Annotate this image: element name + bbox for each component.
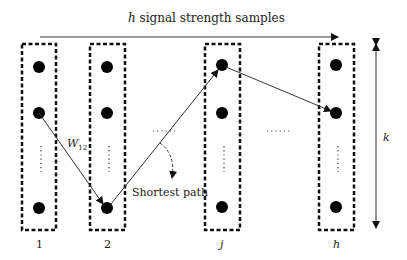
shortest-path-label: Shortest path: [132, 186, 208, 199]
column-label-j: j: [220, 238, 223, 251]
k-label: k: [383, 131, 390, 144]
diagram-canvas: [0, 0, 407, 260]
column-label-2: 2: [104, 238, 111, 251]
column-label-1: 1: [36, 238, 43, 251]
column-label-h: h: [333, 238, 340, 251]
annotation-arrow: [160, 143, 173, 178]
chart-title: h signal strength samples: [128, 11, 285, 25]
edge-weight-label: W12: [67, 137, 87, 152]
path-edge-1-2: [39, 113, 103, 204]
path-edge-2-j: [111, 70, 218, 204]
path-edge-j-h: [226, 67, 331, 111]
